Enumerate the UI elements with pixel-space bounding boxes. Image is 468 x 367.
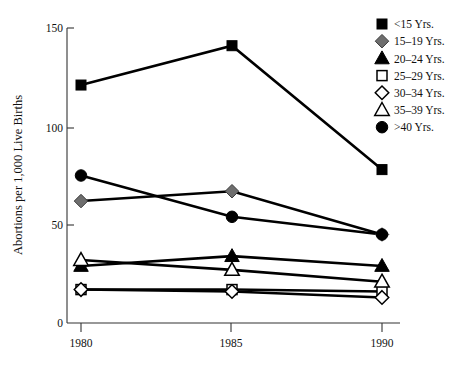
data-point xyxy=(225,249,240,262)
chart-legend: <15 Yrs.15–19 Yrs.20–24 Yrs.25–29 Yrs.30… xyxy=(375,18,445,133)
data-point xyxy=(76,80,86,90)
series-layer xyxy=(74,41,390,304)
data-point xyxy=(74,253,89,266)
y-tick-label-100: 100 xyxy=(46,122,64,134)
legend-label-6: 35–39 Yrs. xyxy=(394,104,445,116)
series-line xyxy=(81,46,382,170)
legend-marker-4 xyxy=(377,71,387,81)
line-chart: Abortions per 1,000 Live Births 150 100 … xyxy=(0,0,468,367)
legend-label-1: <15 Yrs. xyxy=(394,18,434,30)
legend-label-2: 15–19 Yrs. xyxy=(394,35,445,47)
y-tick-label-150: 150 xyxy=(46,22,64,34)
legend-marker-5 xyxy=(375,86,389,100)
y-tick-label-0: 0 xyxy=(57,317,63,329)
data-point xyxy=(74,194,88,208)
data-point xyxy=(226,211,238,223)
series-markers-5 xyxy=(74,283,389,304)
data-point xyxy=(75,170,87,182)
data-point xyxy=(376,229,388,241)
series-1 xyxy=(81,46,382,170)
legend-label-3: 20–24 Yrs. xyxy=(394,53,445,65)
legend-label-4: 25–29 Yrs. xyxy=(394,70,445,82)
data-point xyxy=(225,184,239,198)
legend-marker-3 xyxy=(375,51,390,64)
chart-canvas: Abortions per 1,000 Live Births 150 100 … xyxy=(0,0,468,367)
y-axis-title: Abortions per 1,000 Live Births xyxy=(11,95,25,255)
legend-marker-2 xyxy=(375,34,389,48)
x-tick-label-1990: 1990 xyxy=(371,337,394,349)
legend-label-7: >40 Yrs. xyxy=(394,121,434,133)
legend-marker-7 xyxy=(376,121,388,133)
y-tick-label-50: 50 xyxy=(52,219,64,231)
x-tick-label-1985: 1985 xyxy=(220,337,243,349)
data-point xyxy=(377,165,387,175)
data-point xyxy=(227,41,237,51)
legend-marker-1 xyxy=(377,19,387,29)
series-markers-1 xyxy=(76,41,387,175)
x-tick-label-1980: 1980 xyxy=(70,337,93,349)
legend-label-5: 30–34 Yrs. xyxy=(394,87,445,99)
legend-marker-6 xyxy=(375,103,390,116)
